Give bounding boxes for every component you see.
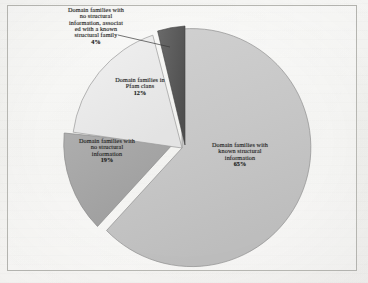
pie-label-associated-known-family: Domain families with no structural infor… (34, 7, 158, 45)
pie-label-percent: 65% (186, 161, 294, 167)
pie-label-percent: 19% (55, 157, 159, 163)
pie-label-known-structural-information: Domain families with known structural in… (186, 142, 294, 167)
figure-page: Domain families with no structural infor… (0, 0, 368, 283)
pie-label-percent: 12% (92, 90, 188, 96)
pie-label-pfam-clans: Domain families in Pfam clans 12% (92, 77, 188, 96)
pie-label-percent: 4% (34, 39, 158, 45)
pie-label-no-structural-information: Domain families with no structural infor… (55, 138, 159, 163)
